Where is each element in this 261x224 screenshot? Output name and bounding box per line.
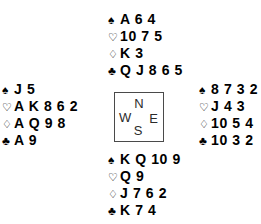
compass-south-label: S [134,124,143,137]
south-hearts-cards: Q 9 [120,168,144,185]
hand-east: ♠ 8 7 3 2 ♡ J 4 3 ♢ 10 5 4 ♣ 10 3 2 [199,81,258,149]
hand-north: ♠ A 6 4 ♡ 10 7 5 ♢ K 3 ♣ Q J 8 6 5 [108,11,183,79]
south-hearts-row: ♡ Q 9 [108,168,181,185]
west-hearts-row: ♡ A K 8 6 2 [2,98,78,115]
north-hearts-row: ♡ 10 7 5 [108,28,183,45]
north-diamonds-row: ♢ K 3 [108,45,183,62]
west-hearts-cards: A K 8 6 2 [14,98,78,115]
west-spades-row: ♠ J 5 [2,81,78,98]
compass-north-label: N [134,97,143,110]
west-diamonds-row: ♢ A Q 9 8 [2,115,78,132]
heart-icon: ♡ [199,99,211,116]
bridge-deal-diagram: ♠ A 6 4 ♡ 10 7 5 ♢ K 3 ♣ Q J 8 6 5 ♠ J 5… [0,0,261,224]
east-diamonds-row: ♢ 10 5 4 [199,115,258,132]
south-spades-cards: K Q 10 9 [120,151,181,168]
north-diamonds-cards: K 3 [120,45,144,62]
east-hearts-row: ♡ J 4 3 [199,98,258,115]
east-spades-row: ♠ 8 7 3 2 [199,81,258,98]
north-spades-cards: A 6 4 [120,11,156,28]
diamond-icon: ♢ [199,116,211,133]
east-diamonds-cards: 10 5 4 [211,115,254,132]
east-spades-cards: 8 7 3 2 [211,81,258,98]
north-hearts-cards: 10 7 5 [120,28,163,45]
west-clubs-row: ♣ A 9 [2,132,78,149]
heart-icon: ♡ [108,29,120,46]
spade-icon: ♠ [2,82,14,99]
south-diamonds-row: ♢ J 7 6 2 [108,185,181,202]
spade-icon: ♠ [108,152,120,169]
diamond-icon: ♢ [108,46,120,63]
hand-west: ♠ J 5 ♡ A K 8 6 2 ♢ A Q 9 8 ♣ A 9 [2,81,78,149]
club-icon: ♣ [199,133,211,150]
north-spades-row: ♠ A 6 4 [108,11,183,28]
south-spades-row: ♠ K Q 10 9 [108,151,181,168]
east-hearts-cards: J 4 3 [211,98,245,115]
diamond-icon: ♢ [2,116,14,133]
club-icon: ♣ [108,203,120,220]
compass-box: N W E S [114,92,164,142]
east-clubs-cards: 10 3 2 [211,132,254,149]
diamond-icon: ♢ [108,186,120,203]
north-clubs-cards: Q J 8 6 5 [120,62,183,79]
heart-icon: ♡ [2,99,14,116]
compass-east-label: E [149,111,158,124]
spade-icon: ♠ [199,82,211,99]
spade-icon: ♠ [108,12,120,29]
east-clubs-row: ♣ 10 3 2 [199,132,258,149]
club-icon: ♣ [2,133,14,150]
compass-west-label: W [119,111,131,124]
north-clubs-row: ♣ Q J 8 6 5 [108,62,183,79]
west-spades-cards: J 5 [14,81,35,98]
club-icon: ♣ [108,63,120,80]
south-clubs-cards: K 7 4 [120,202,156,219]
south-diamonds-cards: J 7 6 2 [120,185,167,202]
south-clubs-row: ♣ K 7 4 [108,202,181,219]
west-clubs-cards: A 9 [14,132,37,149]
west-diamonds-cards: A Q 9 8 [14,115,66,132]
heart-icon: ♡ [108,169,120,186]
hand-south: ♠ K Q 10 9 ♡ Q 9 ♢ J 7 6 2 ♣ K 7 4 [108,151,181,219]
